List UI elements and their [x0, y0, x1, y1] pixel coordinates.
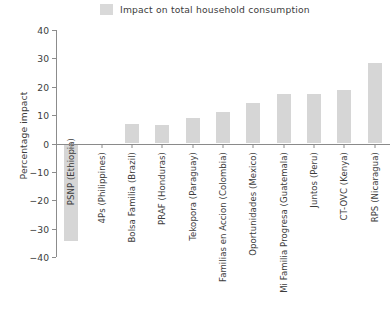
x-tick-label: Juntos (Peru) [309, 152, 319, 208]
x-tick-label: PRAF (Honduras) [157, 152, 167, 225]
legend-label: Impact on total household consumption [120, 4, 310, 15]
y-tick-label: 20 [37, 81, 49, 92]
bar[interactable] [246, 103, 260, 144]
x-tick-label: Tekopora (Paraguay) [188, 152, 198, 241]
y-axis-title: Percentage impact [18, 66, 29, 206]
y-tick-label: −10 [30, 166, 49, 177]
bar[interactable] [186, 118, 200, 144]
x-tick-label: Oportunidades (Mexico) [248, 152, 258, 256]
bar[interactable] [337, 90, 351, 144]
x-tick-label: CT-OVC (Kenya) [339, 152, 349, 220]
chart-legend: Impact on total household consumption [100, 4, 310, 15]
y-tick-label: 40 [37, 25, 49, 36]
x-tick-label: Bolsa Familia (Brazil) [127, 152, 137, 243]
bar[interactable] [125, 124, 139, 143]
plot-area: 403020100−10−20−30−40 PSNP (Ethiopia)4Ps… [56, 30, 390, 257]
y-tick-label: 10 [37, 110, 49, 121]
y-tick-mark [52, 257, 56, 258]
y-tick-label: −40 [30, 252, 49, 263]
x-tick-label: Familias en Accion (Colombia) [218, 152, 228, 282]
y-tick-label: −30 [30, 223, 49, 234]
bar[interactable] [155, 125, 169, 144]
bar[interactable] [368, 63, 382, 144]
x-tick-label: RPS (Nicaragua) [370, 152, 380, 222]
y-tick-label: −20 [30, 195, 49, 206]
x-tick-label: 4Ps (Philippines) [97, 152, 107, 223]
bar[interactable] [277, 94, 291, 144]
x-tick-label: Mi Familia Progresa (Guatemala) [279, 152, 289, 293]
bar[interactable] [307, 94, 321, 144]
zero-baseline [56, 144, 390, 145]
y-tick-label: 0 [43, 138, 49, 149]
y-tick-label: 30 [37, 53, 49, 64]
bar-chart: Impact on total household consumption Pe… [0, 0, 392, 309]
legend-swatch-icon [100, 4, 113, 15]
bar[interactable] [216, 112, 230, 143]
x-tick-label: PSNP (Ethiopia) [66, 138, 76, 205]
